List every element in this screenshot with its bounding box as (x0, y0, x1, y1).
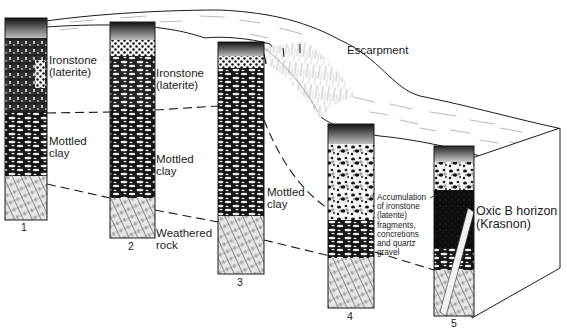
land-surface (6, 10, 558, 170)
label-profile1-ironstone: Ironstone (laterite) (49, 54, 97, 78)
label-profile2-ironstone: Ironstone (laterite) (156, 67, 204, 91)
soil-profile-3 (218, 42, 264, 274)
profile-number-5: 5 (451, 317, 457, 329)
soil-profile-2 (110, 22, 155, 238)
label-profile2-mottled-clay: Mottled clay (156, 153, 194, 177)
soil-profile-5 (434, 146, 474, 316)
soil-profile-4 (328, 124, 374, 308)
label-profile1-mottled-clay: Mottled clay (49, 135, 87, 159)
label-profile5-oxic-b-horizon: Oxic B horizon (Krasnon) (476, 205, 557, 231)
label-profile3-mottled-clay: Mottled clay (267, 186, 305, 210)
label-profile4-accumulation: Accumulation of ironstone (laterite) fra… (377, 193, 426, 257)
profile-number-1: 1 (21, 221, 27, 233)
profile-number-4: 4 (347, 310, 353, 322)
soil-profile-1 (5, 18, 47, 220)
label-escarpment: Escarpment (347, 44, 408, 56)
profile-number-2: 2 (128, 240, 134, 252)
label-profile2-weathered-rock: Weathered rock (156, 227, 212, 251)
profile-number-3: 3 (237, 276, 243, 288)
